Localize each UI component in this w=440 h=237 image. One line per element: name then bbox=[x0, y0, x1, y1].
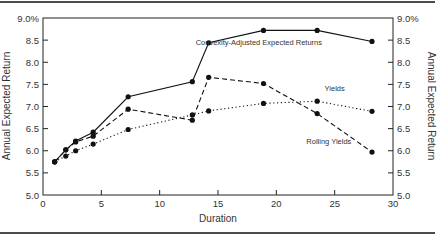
data-point bbox=[206, 75, 211, 80]
x-tick-label: 0 bbox=[40, 198, 45, 209]
y-tick-label-left: 7.0 bbox=[26, 101, 39, 112]
data-point bbox=[126, 107, 131, 112]
series-line bbox=[55, 101, 372, 162]
data-point bbox=[315, 99, 320, 104]
data-point bbox=[63, 153, 68, 158]
y-axis-label-right: Annual Expected Return bbox=[426, 52, 437, 160]
data-point bbox=[73, 139, 78, 144]
y-tick-label-right: 7.5 bbox=[397, 79, 410, 90]
y-tick-label-right: 8.5 bbox=[397, 35, 410, 46]
data-point bbox=[126, 94, 131, 99]
annotation-label: Convexity-Adjusted Expected Returns bbox=[196, 38, 323, 47]
y-tick-label-right: 7.0 bbox=[397, 101, 410, 112]
data-point bbox=[73, 148, 78, 153]
data-point bbox=[91, 134, 96, 139]
annotation-label: Rolling Yields bbox=[306, 137, 351, 146]
y-tick-label-right: 9.0% bbox=[397, 13, 419, 24]
y-tick-label-right: 6.5 bbox=[397, 123, 410, 134]
y-tick-label-left: 8.0 bbox=[26, 57, 39, 68]
data-point bbox=[91, 142, 96, 147]
x-tick-label: 25 bbox=[329, 198, 340, 209]
annotations: Convexity-Adjusted Expected ReturnsYield… bbox=[196, 38, 352, 147]
y-tick-label-left: 8.5 bbox=[26, 35, 39, 46]
data-point bbox=[369, 149, 374, 154]
data-point bbox=[190, 112, 195, 117]
x-tick-label: 5 bbox=[99, 198, 104, 209]
data-point bbox=[315, 28, 320, 33]
data-point bbox=[369, 109, 374, 114]
x-tick-label: 10 bbox=[154, 198, 165, 209]
y-tick-label-right: 6.0 bbox=[397, 145, 410, 156]
chart: 0510152025305.05.05.55.56.06.06.56.57.07… bbox=[0, 0, 440, 237]
y-tick-label-right: 5.5 bbox=[397, 167, 410, 178]
data-point bbox=[369, 39, 374, 44]
x-tick-label: 15 bbox=[213, 198, 224, 209]
y-tick-label-left: 6.5 bbox=[26, 123, 39, 134]
y-tick-label-right: 5.0 bbox=[397, 190, 410, 201]
data-point bbox=[315, 111, 320, 116]
y-tick-label-left: 6.0 bbox=[26, 145, 39, 156]
y-tick-label-left: 7.5 bbox=[26, 79, 39, 90]
y-tick-label-left: 5.5 bbox=[26, 167, 39, 178]
data-point bbox=[261, 81, 266, 86]
data-point bbox=[190, 118, 195, 123]
y-tick-label-right: 8.0 bbox=[397, 57, 410, 68]
data-point bbox=[261, 101, 266, 106]
data-point bbox=[52, 159, 57, 164]
data-point bbox=[63, 147, 68, 152]
y-tick-label-left: 5.0 bbox=[26, 190, 39, 201]
data-point bbox=[261, 28, 266, 33]
y-axis-label-left: Annual Expected Return bbox=[1, 52, 12, 160]
y-tick-label-left: 9.0% bbox=[17, 13, 39, 24]
x-tick-label: 20 bbox=[271, 198, 282, 209]
x-axis-label: Duration bbox=[199, 213, 237, 224]
annotation-label: Yields bbox=[325, 84, 345, 93]
data-point bbox=[190, 79, 195, 84]
data-point bbox=[206, 108, 211, 113]
data-point bbox=[126, 127, 131, 132]
